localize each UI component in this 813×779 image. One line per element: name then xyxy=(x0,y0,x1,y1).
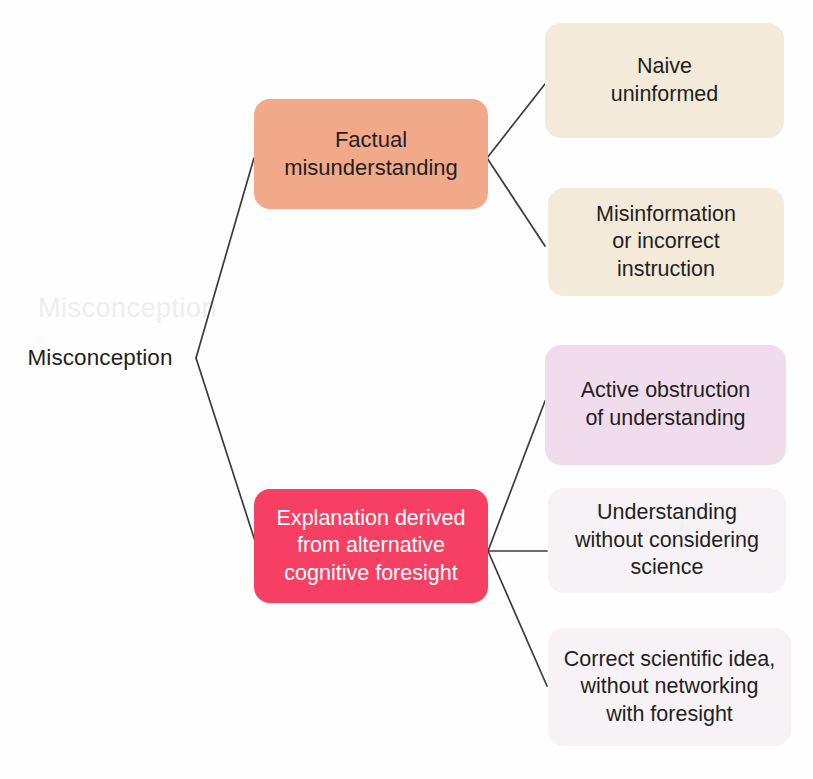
node-explanation-derived[interactable]: Explanation derived from alternative cog… xyxy=(254,489,488,603)
node-misinformation-or-incorrect-instruction-label: Misinformation or incorrect instruction xyxy=(596,201,736,284)
node-misconception[interactable]: Misconception xyxy=(30,338,170,378)
node-factual-misunderstanding-label: Factual misunderstanding xyxy=(284,126,458,182)
connector-explanation-to-active-obstruction xyxy=(488,401,545,551)
node-correct-scientific-idea-label: Correct scientific idea, without network… xyxy=(564,646,776,729)
node-active-obstruction-of-understanding[interactable]: Active obstruction of understanding xyxy=(545,345,786,465)
node-misconception-label: Misconception xyxy=(27,344,172,373)
scan-artifact-ghost-text: Misconception xyxy=(38,293,217,324)
connector-root-to-factual xyxy=(196,158,254,358)
connector-factual-to-naive xyxy=(487,84,545,158)
node-naive-uninformed-label: Naive uninformed xyxy=(611,53,719,108)
node-correct-scientific-idea[interactable]: Correct scientific idea, without network… xyxy=(548,628,791,746)
connector-factual-to-misinformation xyxy=(487,158,545,246)
node-misinformation-or-incorrect-instruction[interactable]: Misinformation or incorrect instruction xyxy=(548,188,784,296)
node-factual-misunderstanding[interactable]: Factual misunderstanding xyxy=(254,99,488,209)
diagram-canvas: Misconception Misconception Factual misu… xyxy=(0,0,813,779)
connector-explanation-to-correct-idea xyxy=(488,551,547,686)
node-understanding-without-considering-science-label: Understanding without considering scienc… xyxy=(575,499,759,582)
node-naive-uninformed[interactable]: Naive uninformed xyxy=(545,23,784,138)
node-explanation-derived-label: Explanation derived from alternative cog… xyxy=(277,505,466,588)
connector-root-to-explanation xyxy=(196,358,255,541)
node-understanding-without-considering-science[interactable]: Understanding without considering scienc… xyxy=(548,488,786,593)
node-active-obstruction-of-understanding-label: Active obstruction of understanding xyxy=(581,377,751,432)
